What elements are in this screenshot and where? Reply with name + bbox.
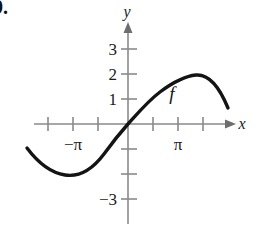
x-tick-label-pi: π bbox=[174, 135, 183, 154]
graph-figure: 9. 3 2 1 −3 −π π x bbox=[0, 0, 258, 231]
y-tick-label-2: 2 bbox=[109, 65, 118, 84]
y-axis-arrow bbox=[124, 22, 133, 33]
y-tick-label-1: 1 bbox=[109, 90, 118, 109]
y-tick-label-neg-3: −3 bbox=[99, 190, 117, 209]
problem-number: 9. bbox=[0, 0, 8, 19]
y-axis-label: y bbox=[121, 3, 131, 21]
y-tick-label-3: 3 bbox=[109, 40, 118, 59]
x-tick-label-neg-pi: −π bbox=[64, 135, 83, 154]
x-axis-label: x bbox=[237, 115, 245, 132]
curve-label: f bbox=[169, 83, 177, 104]
x-axis-arrow bbox=[225, 120, 236, 129]
coordinate-plot: 3 2 1 −3 −π π x y f bbox=[0, 0, 258, 231]
